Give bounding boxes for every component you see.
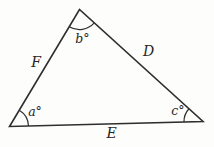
triangle-svg: a° b° c° F D E bbox=[0, 0, 214, 147]
side-label-e: E bbox=[105, 125, 116, 141]
angle-arc-b bbox=[69, 23, 94, 30]
angle-label-c: c° bbox=[171, 103, 184, 118]
triangle-diagram: a° b° c° F D E bbox=[0, 0, 214, 147]
angle-label-a: a° bbox=[28, 104, 42, 119]
side-label-f: F bbox=[30, 54, 42, 70]
side-label-d: D bbox=[142, 43, 154, 59]
angle-arc-c bbox=[184, 109, 189, 122]
angle-arc-a bbox=[19, 110, 28, 126]
angle-label-b: b° bbox=[75, 31, 89, 46]
